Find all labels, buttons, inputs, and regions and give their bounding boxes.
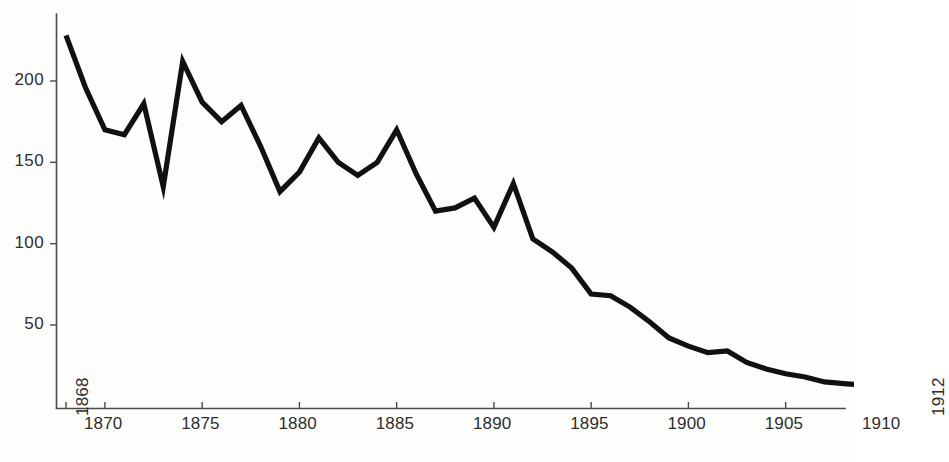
- x-tick-label: 1910: [862, 414, 901, 434]
- y-tick-label: 50: [24, 314, 44, 334]
- x-tick-label: 1900: [667, 414, 706, 434]
- x-tick-label: 1912: [929, 377, 949, 416]
- x-tick-label: 1868: [73, 377, 93, 416]
- data-series-line: [66, 35, 854, 386]
- y-tick-label: 100: [14, 233, 44, 253]
- y-tick-label: 150: [14, 151, 44, 171]
- x-tick-label: 1885: [376, 414, 415, 434]
- x-tick-label: 1890: [473, 414, 512, 434]
- x-tick-label: 1875: [181, 414, 220, 434]
- footer-caption: [0, 450, 854, 462]
- y-tick-label: 200: [14, 70, 44, 90]
- x-tick-label: 1870: [84, 414, 123, 434]
- x-tick-label: 1895: [570, 414, 609, 434]
- x-tick-label: 1905: [765, 414, 804, 434]
- x-tick-label: 1880: [278, 414, 317, 434]
